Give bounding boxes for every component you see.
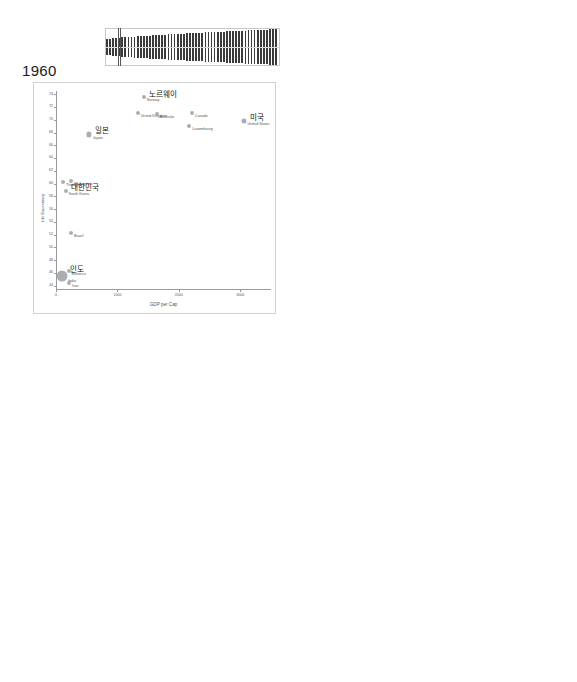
- y-tick: [54, 107, 57, 108]
- scatter-plot: 4446485052545658606264666870727401000200…: [33, 82, 276, 314]
- x-tick: [179, 289, 180, 292]
- point-label-en: Australia: [160, 115, 174, 119]
- x-axis-title: GDP per Cap: [56, 302, 271, 307]
- y-tick-label: 62: [43, 168, 53, 172]
- point-label-ko: 대한민국: [71, 181, 99, 192]
- y-tick: [54, 222, 57, 223]
- y-tick-label: 44: [43, 283, 53, 287]
- brush-midline: [106, 47, 279, 48]
- data-point[interactable]: [136, 111, 140, 115]
- x-tick-label: 2000: [167, 293, 191, 297]
- y-axis-line: [56, 91, 57, 289]
- point-label-en: Luxembourg: [192, 127, 213, 131]
- y-tick: [54, 171, 57, 172]
- y-tick-label: 50: [43, 245, 53, 249]
- y-tick-label: 52: [43, 232, 53, 236]
- data-point[interactable]: [155, 112, 159, 116]
- y-tick-label: 74: [43, 92, 53, 96]
- x-tick: [56, 289, 57, 292]
- data-point[interactable]: [241, 118, 246, 123]
- data-point[interactable]: [64, 189, 68, 193]
- y-tick: [54, 133, 57, 134]
- y-tick: [54, 120, 57, 121]
- y-tick: [54, 94, 57, 95]
- brush-handle[interactable]: [120, 28, 121, 66]
- dashboard-grid: 1960444648505254565860626466687072740100…: [0, 0, 577, 682]
- x-tick-label: 1000: [105, 293, 129, 297]
- point-label-en: South Korea: [69, 192, 90, 196]
- data-point[interactable]: [187, 124, 191, 128]
- panel-2000: 2000586062646668707274767880820100002000…: [288, 341, 577, 682]
- y-tick-label: 66: [43, 143, 53, 147]
- x-axis-line: [56, 289, 271, 290]
- x-tick-label: 3000: [228, 293, 252, 297]
- y-axis-title: Life Expectancy: [40, 193, 45, 221]
- point-label-en: Canada: [195, 114, 208, 118]
- panel-1960: 1960444648505254565860626466687072740100…: [0, 0, 288, 341]
- y-tick: [54, 260, 57, 261]
- time-range-brush[interactable]: [105, 28, 280, 66]
- y-tick-label: 60: [43, 181, 53, 185]
- point-label-en: United States: [248, 122, 270, 126]
- x-tick-label: 0: [44, 293, 68, 297]
- year-title: 1960: [22, 62, 57, 79]
- y-tick: [54, 247, 57, 248]
- point-label-ko: 미국: [250, 111, 264, 122]
- x-tick: [117, 289, 118, 292]
- point-label-ko: 일본: [95, 124, 109, 135]
- data-point[interactable]: [87, 132, 92, 137]
- data-point[interactable]: [142, 95, 146, 99]
- y-tick-label: 46: [43, 270, 53, 274]
- data-point[interactable]: [67, 281, 71, 285]
- y-tick: [54, 209, 57, 210]
- y-tick-label: 48: [43, 258, 53, 262]
- panel-1970: 1970485052545658606264666870727401000200…: [288, 0, 577, 341]
- data-point[interactable]: [56, 271, 67, 282]
- y-tick-label: 68: [43, 130, 53, 134]
- y-tick-label: 70: [43, 117, 53, 121]
- data-point[interactable]: [61, 180, 65, 184]
- y-tick: [54, 184, 57, 185]
- y-tick: [54, 196, 57, 197]
- y-tick-label: 64: [43, 155, 53, 159]
- point-label-en: Brazil: [74, 234, 83, 238]
- x-tick: [240, 289, 241, 292]
- data-point[interactable]: [190, 111, 194, 115]
- panel-1990: 1990606264666870727476780100002000030000…: [0, 341, 288, 682]
- point-label-en: Iran: [72, 284, 78, 288]
- data-point[interactable]: [69, 231, 73, 235]
- y-tick: [54, 235, 57, 236]
- point-label-en: Norway: [147, 98, 160, 102]
- y-tick: [54, 286, 57, 287]
- point-label-ko: 노르웨이: [149, 88, 177, 99]
- y-tick: [54, 145, 57, 146]
- y-tick: [54, 158, 57, 159]
- plot-axes: 4446485052545658606264666870727401000200…: [34, 83, 275, 313]
- y-tick-label: 72: [43, 104, 53, 108]
- point-label-ko: 인도: [70, 263, 84, 274]
- point-label-en: Japan: [93, 136, 103, 140]
